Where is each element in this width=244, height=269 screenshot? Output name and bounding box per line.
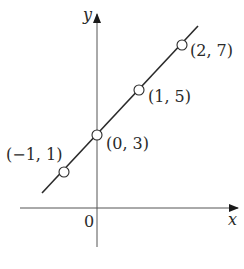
y-axis-label: y (82, 5, 93, 24)
point-neg1-1 (59, 167, 69, 177)
point-label-1-5: (1, 5) (148, 87, 191, 106)
point-1-5 (134, 85, 144, 95)
point-label-2-7: (2, 7) (190, 41, 233, 60)
point-2-7 (177, 40, 187, 50)
point-label-neg1-1: (−1, 1) (6, 145, 62, 164)
origin-label: 0 (84, 212, 94, 231)
coordinate-plane: (−1, 1) (0, 3) (1, 5) (2, 7) y x 0 (0, 0, 244, 269)
point-label-0-3: (0, 3) (106, 134, 149, 153)
point-0-3 (92, 130, 102, 140)
x-axis-label: x (228, 210, 237, 229)
